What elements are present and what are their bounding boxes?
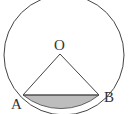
shaded-segment [23,95,99,109]
label-a: A [11,96,22,112]
circle-diagram: O A B [0,0,129,114]
label-o: O [54,37,65,53]
radius-ob [60,54,99,95]
radius-oa [23,54,60,95]
label-b: B [104,89,114,105]
